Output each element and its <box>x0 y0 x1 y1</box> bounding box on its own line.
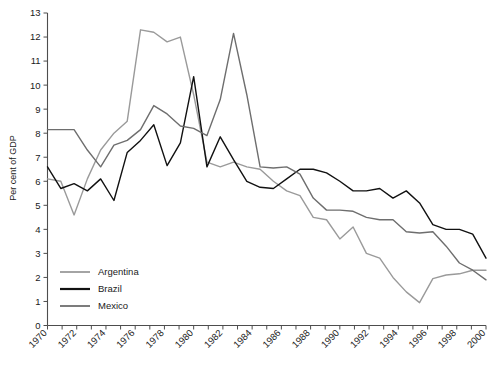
x-tick-label: 1976 <box>114 327 137 350</box>
y-tick-label: 8 <box>35 128 40 139</box>
y-tick-label: 12 <box>30 31 41 42</box>
line-chart: Per cent of GDP 012345678910111213 19701… <box>0 0 493 365</box>
x-tick-label: 1988 <box>289 327 312 350</box>
y-tick-label: 3 <box>35 248 40 259</box>
x-tick-label: 1974 <box>85 327 108 350</box>
y-tick-label: 7 <box>35 152 40 163</box>
y-axis-title-text: Per cent of GDP <box>8 135 18 201</box>
x-tick-label: 1992 <box>348 327 371 350</box>
y-tick-label: 13 <box>30 7 41 18</box>
y-tick-label: 10 <box>30 80 41 91</box>
series-line-mexico <box>48 33 487 279</box>
y-tick-label: 4 <box>35 224 40 235</box>
y-tick-label: 11 <box>31 55 41 66</box>
y-tick-label: 6 <box>35 176 40 187</box>
series-group <box>48 30 487 303</box>
x-tick-label: 1996 <box>406 327 429 350</box>
y-tick-label: 9 <box>35 104 40 115</box>
axis-lines <box>48 13 487 326</box>
x-tick-label: 1982 <box>202 327 225 350</box>
x-tick-label: 1980 <box>172 327 195 350</box>
legend-label-mexico: Mexico <box>98 300 128 311</box>
legend-label-brazil: Brazil <box>98 283 122 294</box>
x-tick-group: 1970197219741976197819801982198419861988… <box>26 326 487 350</box>
x-tick-label: 1986 <box>260 327 283 350</box>
chart-container: Per cent of GDP 012345678910111213 19701… <box>0 0 493 365</box>
x-tick-label: 1998 <box>435 327 458 350</box>
x-tick-label: 1984 <box>231 327 254 350</box>
y-axis-title: Per cent of GDP <box>8 135 18 201</box>
y-tick-group: 012345678910111213 <box>30 7 48 331</box>
x-tick-label: 2000 <box>465 327 488 350</box>
chart-legend: ArgentinaBrazilMexico <box>60 266 139 311</box>
x-tick-label: 1970 <box>26 327 49 350</box>
x-tick-label: 1972 <box>55 327 78 350</box>
series-line-argentina <box>48 30 487 303</box>
x-tick-label: 1994 <box>377 327 400 350</box>
legend-label-argentina: Argentina <box>98 266 139 277</box>
y-tick-label: 2 <box>35 272 40 283</box>
x-tick-label: 1978 <box>143 327 166 350</box>
y-tick-label: 1 <box>35 296 40 307</box>
x-tick-label: 1990 <box>319 327 342 350</box>
y-tick-label: 5 <box>35 200 40 211</box>
